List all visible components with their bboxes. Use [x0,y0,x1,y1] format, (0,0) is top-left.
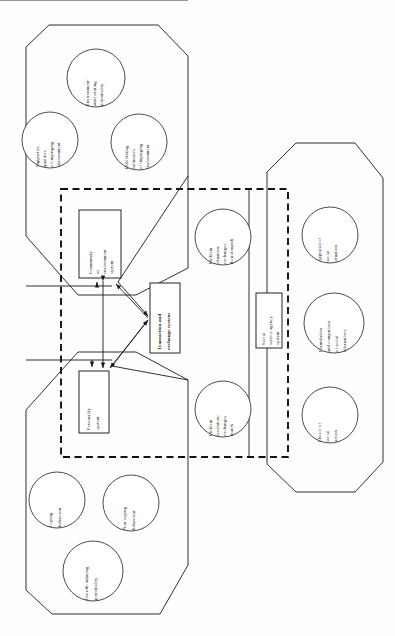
circle-formulation-line-2: of social [334,335,339,352]
circle-growth-line-1: potentiality [93,577,98,600]
circle-choice-line-2: action [333,429,338,442]
circle-problem-situation: Problem situation: exchanges do not matc… [195,209,251,265]
circle-supportive-line-3: environment [56,142,61,167]
box-community-environment-system: Community or environment system [79,210,121,278]
circle-problem-resolution: Problem resolution: exchanges match [195,381,251,437]
circle-problem-resolution-line-3: match [229,424,234,436]
box-agency-line-2: system [275,331,280,345]
circle-env-ameliorating-line-1: ameliorating [92,81,97,106]
circle-environment-ameliorating: Environment- ameliorating potentiality [67,49,125,107]
circle-appraisal-line-0: Appraisal of [317,237,322,262]
box-personality-line-1: system [95,416,100,430]
circle-appraisal-of-social-situation: Appraisal of social situation [302,207,358,263]
circle-debilitating-influences: Debilitating influences of impinging env… [111,114,167,170]
circle-formulation-and-comparison: Formulation and comparison of social alt… [304,293,364,353]
box-transaction-line-1: exchange system [166,312,171,350]
arrow-transaction-to-personality [110,320,148,368]
circle-debilitating-line-0: Debilitating [124,145,129,169]
box-community-line-1: or [95,270,100,274]
circle-env-ameliorating-line-0: Environment- [85,79,90,106]
box-transaction-exchange-system: Transaction and exchange system [150,283,180,353]
circle-problem-situation-line-0: Problem [208,247,213,264]
circle-growth-inducing-potentiality: Growth-inducing potentiality [63,541,123,601]
circle-problem-resolution-line-2: exchanges [222,416,227,436]
circle-debilitating-line-2: of impinging [138,143,143,169]
box-community-line-3: system [109,260,114,274]
circle-problem-situation-line-1: situation: [215,246,220,264]
box-agency-line-1: service agency [268,316,273,345]
circle-non-coping-behaviour: Non-coping behaviour [103,475,159,531]
circle-env-ameliorating-line-2: potentiality [99,83,104,106]
diagram-svg: Community or environment system Transact… [0,0,395,636]
circle-appraisal-line-2: situation [333,245,338,262]
arrow-community-to-transaction [118,282,148,316]
circle-non-coping-line-0: Non-coping [122,506,127,530]
circle-problem-resolution-line-0: Problem [208,419,213,436]
circle-supportive-line-1: qualities [42,150,47,167]
box-community-line-0: Community [88,250,93,274]
box-transaction-line-0: Transaction and [157,314,162,350]
diagonal-env-to-community [118,176,188,282]
circle-supportive-line-2: of impinging [49,141,54,167]
circle-supportive-line-0: Supportive [35,146,40,167]
circle-non-coping-line-1: behaviour [131,510,136,530]
box-personality-line-0: Personality [86,407,91,430]
box-agency-line-0: Social [261,332,266,345]
circle-growth-line-0: Growth-inducing [84,566,89,600]
box-personality-system: Personality system [79,371,109,433]
diagonal-person-to-personality [112,366,188,380]
circle-debilitating-line-3: environment [145,144,150,169]
circle-choice-line-0: Choice of [317,423,322,442]
circle-appraisal-line-1: social [325,250,330,262]
diagram-canvas: Community or environment system Transact… [0,0,395,636]
box-social-service-agency-system: Social service agency system [256,293,282,348]
circle-coping-line-0: Coping [48,512,53,527]
arrow-transaction-to-community [116,284,148,318]
circle-supportive-qualities: Supportive qualities of impinging enviro… [22,112,78,168]
connector-lines [26,286,112,360]
box-community-line-2: environment [102,249,107,274]
circle-problem-situation-line-3: do not match [229,238,234,264]
circle-formulation-line-1: and comparison [326,321,331,352]
circle-choice-of-social-action: Choice of social action [302,387,358,443]
circle-coping-behaviour: Coping behaviour [29,472,85,528]
circle-coping-line-1: behaviour [57,507,62,527]
circle-formulation-line-0: Formulation [318,327,323,352]
circle-choice-line-1: social [325,430,330,442]
circle-problem-resolution-line-1: resolution: [215,415,220,436]
circle-problem-situation-line-2: exchanges [222,244,227,264]
circle-formulation-line-3: alternatives [342,329,347,352]
circle-debilitating-line-1: influences [131,149,136,169]
